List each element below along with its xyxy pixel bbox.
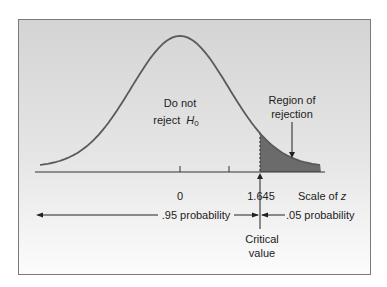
normal-distribution-chart: Do not reject H0 Region of rejection 0 1… xyxy=(0,0,387,287)
reject-h0-label: reject H0 xyxy=(153,114,199,128)
p05-label: .05 probability xyxy=(286,209,355,221)
h-symbol: H xyxy=(186,114,194,126)
p95-label: .95 probability xyxy=(162,209,231,221)
tick-label-zero: 0 xyxy=(177,190,183,202)
region-of-label: Region of xyxy=(268,94,316,106)
chart-frame xyxy=(19,20,371,275)
reject-word: reject xyxy=(153,114,180,126)
tick-label-critical: 1.645 xyxy=(247,190,275,202)
rejection-label: rejection xyxy=(271,108,313,120)
scale-of-z-label: Scale of z xyxy=(298,190,347,202)
do-not-label: Do not xyxy=(164,97,196,109)
value-label: value xyxy=(249,247,275,259)
z-symbol: z xyxy=(340,190,347,202)
scale-of-text: Scale of xyxy=(298,190,341,202)
h-subscript: 0 xyxy=(194,119,199,128)
critical-label: Critical xyxy=(245,233,279,245)
